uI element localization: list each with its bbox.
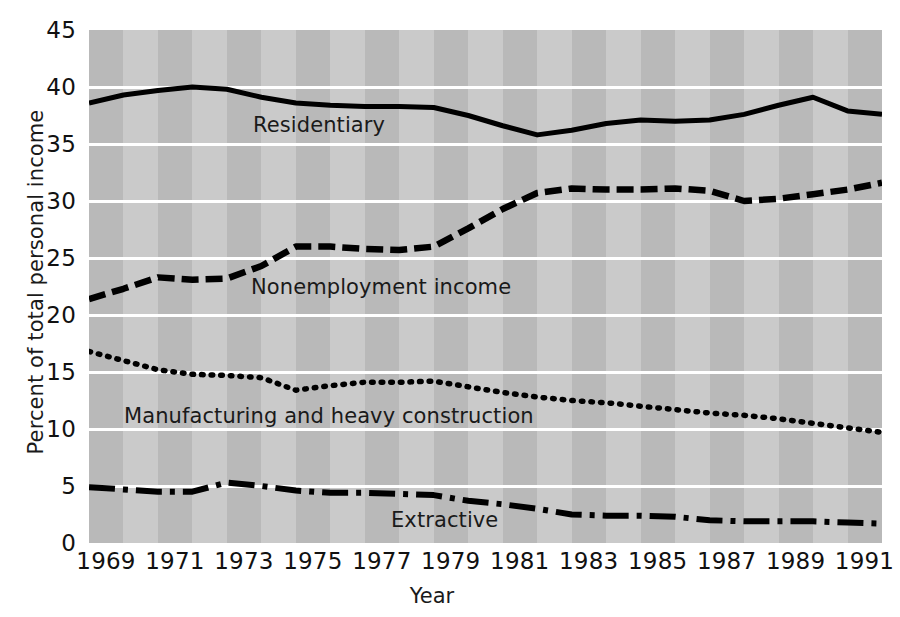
y-axis-tick-labels: 454035302520151050 <box>0 0 82 617</box>
x-axis-tick-label: 1973 <box>214 548 273 574</box>
series-label-extractive: Extractive <box>391 508 498 532</box>
y-axis-tick-label: 40 <box>46 74 76 100</box>
series-label-residentiary: Residentiary <box>253 113 385 137</box>
series-label-manufacturing-and-heavy-construction: Manufacturing and heavy construction <box>124 404 534 428</box>
y-axis-tick-label: 45 <box>46 17 76 43</box>
line-chart: Percent of total personal income 4540353… <box>0 0 900 617</box>
y-axis-tick-label: 5 <box>61 473 76 499</box>
x-axis-title: Year <box>0 584 900 608</box>
y-axis-tick-label: 25 <box>46 245 76 271</box>
x-axis-tick-label: 1977 <box>352 548 411 574</box>
x-axis-tick-labels: 1969197119731975197719791981198319851987… <box>0 548 900 582</box>
y-axis-tick-label: 35 <box>46 131 76 157</box>
x-axis-tick-label: 1985 <box>628 548 687 574</box>
x-axis-tick-label: 1991 <box>835 548 894 574</box>
x-axis-tick-label: 1983 <box>559 548 618 574</box>
y-axis-tick-label: 15 <box>46 359 76 385</box>
series-label-nonemployment-income: Nonemployment income <box>251 275 511 299</box>
x-axis-tick-label: 1969 <box>76 548 135 574</box>
y-axis-tick-label: 30 <box>46 188 76 214</box>
series-line <box>89 87 882 135</box>
x-axis-tick-label: 1979 <box>421 548 480 574</box>
x-axis-tick-label: 1989 <box>766 548 825 574</box>
x-axis-tick-label: 1971 <box>145 548 204 574</box>
x-axis-tick-label: 1987 <box>697 548 756 574</box>
y-axis-tick-label: 10 <box>46 416 76 442</box>
y-axis-tick-label: 20 <box>46 302 76 328</box>
x-axis-title-text: Year <box>410 584 454 608</box>
x-axis-tick-label: 1975 <box>283 548 342 574</box>
x-axis-tick-label: 1981 <box>490 548 549 574</box>
